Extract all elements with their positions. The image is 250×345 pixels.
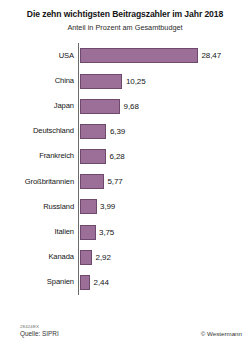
bar-zone: 10,25 (80, 68, 244, 93)
bar-row: Russland3,99 (6, 194, 244, 219)
bar (80, 99, 120, 114)
bar-category-label: Japan (6, 102, 80, 110)
bar-value-label: 5,77 (107, 177, 122, 186)
bar-value-label: 10,25 (126, 77, 146, 86)
bar-zone: 6,39 (80, 119, 244, 144)
bar-row: Italien3,75 (6, 220, 244, 245)
bar-row: China10,25 (6, 68, 244, 93)
bar (80, 199, 97, 214)
bar-category-label: Großbritannien (6, 178, 80, 186)
source-note: Quelle: SIPRI (20, 330, 59, 338)
bar-value-label: 6,28 (110, 152, 125, 161)
bar (80, 225, 96, 240)
footer-left: 28424EX Quelle: SIPRI (20, 324, 59, 339)
bar-category-label: Spanien (6, 278, 80, 286)
bar-zone: 3,99 (80, 194, 244, 219)
bar-category-label: Kanada (6, 253, 80, 261)
chart-subtitle: Anteil in Prozent am Gesamtbudget (10, 23, 240, 32)
bar (80, 149, 106, 164)
bar-rows: USA28,47China10,25Japan9,68Deutschland6,… (6, 43, 244, 295)
bar-category-label: Deutschland (6, 127, 80, 135)
figure-code: 28424EX (20, 324, 59, 330)
bar (80, 124, 106, 139)
bar-zone: 2,92 (80, 245, 244, 270)
plot-area: USA28,47China10,25Japan9,68Deutschland6,… (6, 43, 244, 345)
bar-row: Frankreich6,28 (6, 144, 244, 169)
chart-card: Die zehn wichtigsten Beitragszahler im J… (0, 0, 250, 345)
bar-zone: 5,77 (80, 169, 244, 194)
copyright-note: © Westermann (201, 330, 242, 338)
bar-row: Großbritannien5,77 (6, 169, 244, 194)
bar-row: Japan9,68 (6, 94, 244, 119)
bar-value-label: 2,92 (96, 253, 111, 262)
bar-value-label: 2,44 (94, 278, 109, 287)
bar (80, 250, 92, 265)
bar-value-label: 28,47 (202, 51, 222, 60)
bar-value-label: 3,99 (100, 202, 115, 211)
title-block: Die zehn wichtigsten Beitragszahler im J… (6, 9, 244, 32)
bar-value-label: 6,39 (110, 127, 125, 136)
bar-zone: 6,28 (80, 144, 244, 169)
bar (80, 275, 90, 290)
bar (80, 48, 198, 63)
bar-row: USA28,47 (6, 43, 244, 68)
bar-zone: 28,47 (80, 43, 244, 68)
bar-category-label: China (6, 77, 80, 85)
bar-zone: 2,44 (80, 270, 244, 295)
bar-value-label: 3,75 (99, 228, 114, 237)
bar-category-label: USA (6, 52, 80, 60)
bar-zone: 9,68 (80, 94, 244, 119)
chart-footer: 28424EX Quelle: SIPRI © Westermann (0, 324, 250, 339)
bar-value-label: 9,68 (124, 102, 139, 111)
bar (80, 74, 122, 89)
bar-row: Spanien2,44 (6, 270, 244, 295)
bar-category-label: Russland (6, 203, 80, 211)
chart-title: Die zehn wichtigsten Beitragszahler im J… (10, 9, 240, 20)
bar-category-label: Italien (6, 228, 80, 236)
bar-zone: 3,75 (80, 220, 244, 245)
bar-category-label: Frankreich (6, 152, 80, 160)
bar-row: Deutschland6,39 (6, 119, 244, 144)
bar (80, 174, 104, 189)
bar-row: Kanada2,92 (6, 245, 244, 270)
